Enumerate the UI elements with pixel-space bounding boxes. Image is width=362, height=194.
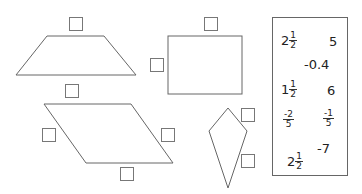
parallelogram-shape <box>44 104 173 163</box>
number-neg-7[interactable]: -7 <box>317 142 330 155</box>
number-neg-0-4[interactable]: -0.4 <box>304 58 329 71</box>
kite-bottom-answer-box[interactable] <box>241 154 255 168</box>
kite-top-answer-box[interactable] <box>241 108 255 122</box>
number-neg-2-5[interactable]: -25 <box>283 110 294 129</box>
trapezoid-top-answer-box[interactable] <box>69 17 83 31</box>
number-6[interactable]: 6 <box>327 84 335 97</box>
denominator: 5 <box>326 119 332 128</box>
rectangle-left-answer-box[interactable] <box>150 58 164 72</box>
number-5[interactable]: 5 <box>329 35 337 48</box>
trapezoid-shape <box>16 36 136 75</box>
number-2-1-2[interactable]: 212 <box>281 31 297 50</box>
number-1-1-2[interactable]: 112 <box>281 80 297 99</box>
whole: 2 <box>287 155 295 168</box>
rectangle-shape <box>168 36 242 94</box>
whole: 2 <box>281 34 289 47</box>
denominator: 2 <box>290 90 296 99</box>
rectangle-top-answer-box[interactable] <box>204 17 218 31</box>
denominator: 2 <box>296 162 302 171</box>
parallelogram-left-answer-box[interactable] <box>42 128 56 142</box>
parallelogram-bottom-answer-box[interactable] <box>120 167 134 181</box>
number-bank-panel: 212 5 -0.4 112 6 -25 -15 212 -7 <box>272 17 348 176</box>
whole: 1 <box>281 83 289 96</box>
parallelogram-right-answer-box[interactable] <box>161 128 175 142</box>
number-neg-1-5[interactable]: -15 <box>323 109 334 128</box>
denominator: 5 <box>286 120 292 129</box>
denominator: 2 <box>290 41 296 50</box>
trapezoid-bottom-answer-box[interactable] <box>65 84 79 98</box>
number-2-1-2-b[interactable]: 212 <box>287 152 303 171</box>
